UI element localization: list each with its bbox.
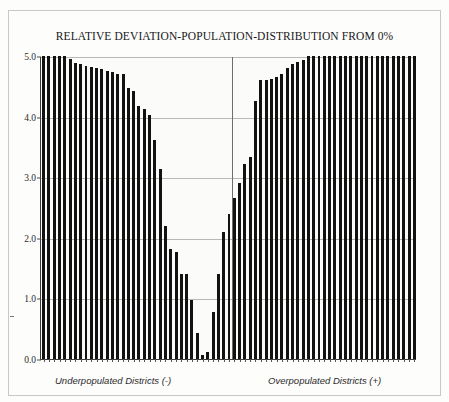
x-axis-tick-mark xyxy=(197,359,198,362)
x-axis-tick-mark xyxy=(203,359,204,362)
x-axis-tick-mark xyxy=(261,359,262,362)
x-axis-tick-mark xyxy=(414,359,415,362)
bar xyxy=(180,274,183,359)
bar xyxy=(291,64,294,359)
bar xyxy=(323,56,326,359)
bar xyxy=(402,56,405,359)
bar xyxy=(100,69,103,359)
bar xyxy=(116,74,119,359)
axis-caption-underpopulated: Underpopulated Districts (-) xyxy=(55,375,171,386)
bar xyxy=(275,77,278,359)
bar xyxy=(164,226,167,359)
bar xyxy=(58,56,61,359)
bar xyxy=(270,79,273,359)
x-axis-tick-mark xyxy=(229,359,230,362)
bar xyxy=(238,183,241,359)
y-axis-tick-label: 2.0 xyxy=(24,234,36,244)
bar xyxy=(333,56,336,359)
bar xyxy=(365,56,368,359)
bar xyxy=(69,59,72,359)
bar xyxy=(302,60,305,359)
bar xyxy=(106,71,109,359)
bar xyxy=(249,157,252,359)
x-axis-tick-mark xyxy=(346,359,347,362)
bar xyxy=(159,169,162,359)
x-axis-tick-mark xyxy=(356,359,357,362)
bar xyxy=(53,56,56,359)
bar xyxy=(397,56,400,359)
bar xyxy=(111,72,114,359)
x-axis-tick-mark xyxy=(250,359,251,362)
x-axis-tick-mark xyxy=(240,359,241,362)
x-axis-tick-mark xyxy=(86,359,87,362)
bar xyxy=(90,67,93,359)
x-axis-tick-mark xyxy=(65,359,66,362)
x-axis-tick-mark xyxy=(340,359,341,362)
x-axis-tick-mark xyxy=(351,359,352,362)
bar xyxy=(63,56,66,359)
bar xyxy=(349,56,352,359)
x-axis-tick-mark xyxy=(287,359,288,362)
axis-caption-overpopulated: Overpopulated Districts (+) xyxy=(268,375,381,386)
bar xyxy=(360,56,363,359)
x-axis-tick-mark xyxy=(324,359,325,362)
bar xyxy=(355,56,358,359)
bar xyxy=(42,56,45,359)
x-axis-tick-mark xyxy=(393,359,394,362)
x-axis-tick-mark xyxy=(144,359,145,362)
x-axis-tick-mark xyxy=(404,359,405,362)
bar xyxy=(233,198,236,359)
x-axis-tick-mark xyxy=(298,359,299,362)
x-axis-tick-mark xyxy=(70,359,71,362)
bar xyxy=(169,249,172,359)
bar xyxy=(196,333,199,359)
x-axis-tick-mark xyxy=(330,359,331,362)
x-axis-tick-mark xyxy=(224,359,225,362)
y-axis-tick-mark xyxy=(37,360,41,361)
bar xyxy=(190,300,193,359)
bar xyxy=(212,312,215,359)
x-axis-tick-mark xyxy=(245,359,246,362)
bar xyxy=(344,56,347,359)
bar xyxy=(217,274,220,359)
x-axis-tick-mark xyxy=(255,359,256,362)
x-axis-tick-mark xyxy=(81,359,82,362)
bar-series xyxy=(41,57,416,359)
bar xyxy=(228,214,231,359)
bar xyxy=(95,68,98,359)
bar xyxy=(296,62,299,359)
bar xyxy=(254,101,257,359)
x-axis-tick-mark xyxy=(54,359,55,362)
bar xyxy=(286,68,289,359)
x-axis-tick-mark xyxy=(208,359,209,362)
stray-axis-mark xyxy=(10,316,14,317)
x-axis-tick-mark xyxy=(266,359,267,362)
x-axis-tick-mark xyxy=(165,359,166,362)
x-axis-tick-mark xyxy=(271,359,272,362)
x-axis-tick-mark xyxy=(181,359,182,362)
x-axis-tick-mark xyxy=(107,359,108,362)
x-axis-tick-mark xyxy=(160,359,161,362)
bar xyxy=(175,252,178,359)
bar xyxy=(371,56,374,359)
x-axis-tick-mark xyxy=(75,359,76,362)
bar xyxy=(206,352,209,359)
x-axis-tick-mark xyxy=(187,359,188,362)
y-axis-tick-label: 0.0 xyxy=(24,355,36,365)
x-axis-tick-mark xyxy=(218,359,219,362)
bar xyxy=(137,106,140,359)
x-axis-tick-mark xyxy=(293,359,294,362)
x-axis-tick-mark xyxy=(409,359,410,362)
x-axis-tick-mark xyxy=(282,359,283,362)
bar xyxy=(127,88,130,359)
x-axis-tick-mark xyxy=(150,359,151,362)
bar xyxy=(47,56,50,359)
x-axis-tick-mark xyxy=(314,359,315,362)
center-divider-line xyxy=(232,57,233,359)
x-axis-tick-mark xyxy=(44,359,45,362)
bar xyxy=(392,56,395,359)
plot-wrap: 0.01.02.03.04.05.0 xyxy=(40,57,416,360)
x-axis-tick-mark xyxy=(134,359,135,362)
x-axis-tick-mark xyxy=(112,359,113,362)
bar xyxy=(185,274,188,359)
